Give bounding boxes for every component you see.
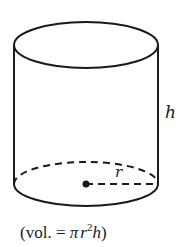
caption-open: (vol. = (20, 223, 70, 242)
caption-h: h (92, 223, 101, 242)
center-point (83, 181, 90, 188)
cylinder-diagram: h r (vol. = πr2h) (0, 0, 188, 247)
height-label: h (165, 102, 176, 122)
cylinder-top-ellipse (14, 22, 158, 68)
caption-close: ) (101, 223, 107, 242)
radius-label: r (115, 163, 123, 181)
volume-caption: (vol. = πr2h) (20, 221, 107, 242)
caption-pi: π (70, 223, 79, 242)
